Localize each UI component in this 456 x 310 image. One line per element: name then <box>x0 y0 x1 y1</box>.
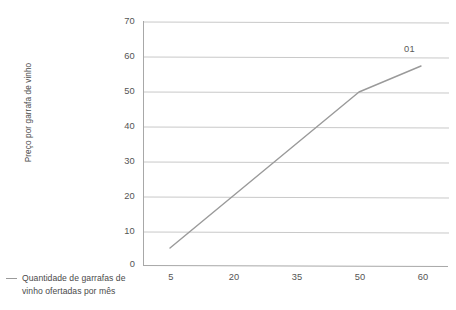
gridline-20 <box>143 197 449 198</box>
legend-label: Quantidade de garrafas de vinho ofertada… <box>22 272 126 297</box>
gridline-30 <box>143 162 449 163</box>
gridline-60 <box>143 57 449 58</box>
legend: Quantidade de garrafas de vinho ofertada… <box>6 272 146 297</box>
legend-line-dash-icon <box>6 278 17 279</box>
gridline-70 <box>143 22 449 23</box>
supply-curve-line <box>170 66 421 248</box>
gridline-50 <box>143 92 449 93</box>
gridline-40 <box>143 127 449 128</box>
legend-label-line2: vinho ofertadas por mês <box>22 286 115 296</box>
supply-curve-chart: Preço por garrafa de vinho 70 60 50 40 3… <box>0 0 456 310</box>
plot-area <box>0 0 456 310</box>
legend-label-line1: Quantidade de garrafas de <box>22 273 126 283</box>
x-axis-line <box>143 266 448 267</box>
